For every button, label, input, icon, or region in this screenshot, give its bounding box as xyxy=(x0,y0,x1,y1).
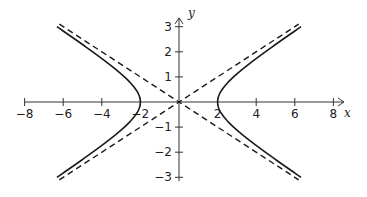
x-tick-label: −8 xyxy=(16,107,34,121)
y-tick-label: 2 xyxy=(164,45,172,59)
y-tick-label: 3 xyxy=(164,20,172,34)
y-tick-label: −1 xyxy=(154,120,172,134)
x-tick-label: 8 xyxy=(330,107,338,121)
axes xyxy=(25,18,344,181)
x-tick-label: 4 xyxy=(252,107,260,121)
y-tick-label: −2 xyxy=(154,145,172,159)
x-axis-label: x xyxy=(344,106,351,120)
x-tick-label: −4 xyxy=(93,107,111,121)
x-tick-label: 6 xyxy=(291,107,299,121)
hyperbola-chart: −8−6−4−22468321−1−2−3 x y xyxy=(0,0,367,197)
x-tick-label: 2 xyxy=(214,107,222,121)
y-tick-label: −3 xyxy=(154,170,172,184)
y-axis-label: y xyxy=(187,6,195,20)
y-tick-label: 1 xyxy=(164,70,172,84)
x-tick-label: −6 xyxy=(54,107,72,121)
x-tick-label: −2 xyxy=(132,107,150,121)
